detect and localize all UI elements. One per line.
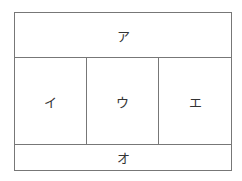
layout-diagram: ア イ ウ エ オ	[14, 12, 232, 171]
region-top: ア	[15, 13, 231, 58]
region-middle-right-label: エ	[189, 92, 202, 111]
region-middle-center-label: ウ	[116, 92, 129, 111]
region-middle-left-label: イ	[44, 92, 57, 111]
region-bottom: オ	[15, 145, 231, 170]
region-middle-left: イ	[15, 58, 87, 145]
region-middle-right: エ	[159, 58, 231, 145]
region-top-label: ア	[117, 26, 130, 45]
region-bottom-label: オ	[117, 148, 130, 167]
region-middle-center: ウ	[87, 58, 159, 145]
